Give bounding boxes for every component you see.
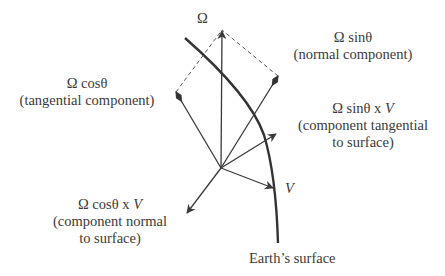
- earth-surface-text: Earth’s surface: [249, 250, 336, 266]
- earth-surface-label: Earth’s surface: [249, 250, 336, 267]
- omega-vector-arrow: [221, 31, 222, 168]
- formula-var: V: [133, 196, 142, 212]
- omega-sin-formula: Ω sinθ: [290, 29, 416, 46]
- omega-label: Ω: [197, 10, 208, 27]
- velocity-vector: [221, 168, 273, 188]
- omega-cos-formula: Ω cosθ: [16, 75, 158, 92]
- formula-prefix: Ω cosθ x: [78, 196, 133, 212]
- omega-sin-label: Ω sinθ (normal component): [290, 29, 416, 63]
- velocity-symbol: V: [285, 180, 294, 196]
- coriolis-components-diagram: Ω Ω cosθ (tangential component) Ω sinθ (…: [0, 0, 445, 276]
- earth-surface-curve: [185, 38, 278, 243]
- formula-var: V: [385, 100, 394, 116]
- omega-cos-x-v-label: Ω cosθ x V (component normal to surface): [50, 196, 170, 247]
- omega-symbol: Ω: [197, 10, 208, 26]
- omega-cos-x-v-vector: [187, 168, 221, 213]
- omega-sin-x-v-desc-1: (component tangential: [297, 117, 429, 134]
- omega-cos-x-v-desc-2: to surface): [50, 230, 170, 247]
- omega-cos-vector: [176, 92, 221, 168]
- formula-prefix: Ω sinθ x: [332, 100, 385, 116]
- omega-cos-x-v-desc-1: (component normal: [50, 213, 170, 230]
- omega-cos-description: (tangential component): [16, 92, 158, 109]
- omega-sin-x-v-label: Ω sinθ x V (component tangential to surf…: [297, 100, 429, 151]
- omega-sin-x-v-desc-2: to surface): [297, 134, 429, 151]
- velocity-label: V: [285, 180, 294, 197]
- omega-sin-x-v-formula: Ω sinθ x V: [297, 100, 429, 117]
- omega-cos-x-v-formula: Ω cosθ x V: [50, 196, 170, 213]
- omega-sin-description: (normal component): [290, 46, 416, 63]
- omega-cos-label: Ω cosθ (tangential component): [16, 75, 158, 109]
- dashed-line-left: [176, 30, 222, 92]
- dashed-line-right: [222, 30, 278, 76]
